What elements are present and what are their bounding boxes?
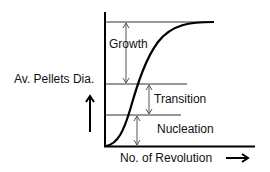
transition-range-arrow [146,85,152,114]
x-axis-label: No. of Revolution [120,152,212,164]
growth-label: Growth [109,38,148,50]
y-axis-label: Av. Pellets Dia. [14,73,94,85]
transition-label: Transition [154,93,206,105]
y-direction-arrow-icon [86,96,94,132]
diagram-canvas [0,0,270,172]
growth-range-arrow [123,23,129,83]
nucleation-label: Nucleation [157,123,214,135]
x-direction-arrow-icon [226,154,248,162]
nucleation-range-arrow [134,116,140,145]
